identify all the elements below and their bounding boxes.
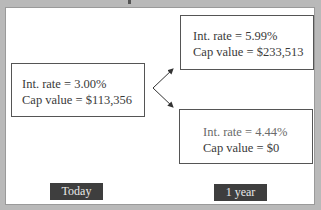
- arrow-up-icon: [153, 69, 173, 88]
- branch-arrows: [0, 0, 321, 210]
- arrow-down-icon: [153, 88, 173, 107]
- time-label-one-year: 1 year: [214, 184, 267, 201]
- time-label-today: Today: [50, 183, 103, 200]
